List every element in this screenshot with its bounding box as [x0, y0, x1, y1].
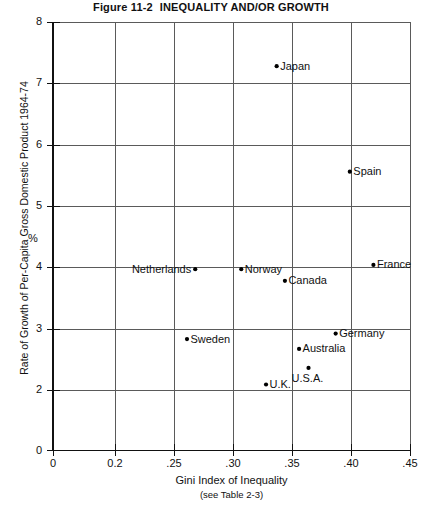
scatter-plot-canvas	[0, 0, 422, 510]
data-point-norway	[239, 267, 243, 271]
x-tick-label: .40	[331, 458, 371, 469]
y-axis-unit: %	[28, 232, 38, 244]
point-label-netherlands: Netherlands	[132, 264, 191, 275]
y-tick-label: 0	[20, 445, 42, 456]
x-axis-subtitle: (see Table 2-3)	[53, 489, 410, 500]
point-label-canada: Canada	[288, 275, 327, 286]
x-tick-label: .25	[154, 458, 194, 469]
data-point-japan	[275, 64, 279, 68]
x-tick-label: 0	[33, 458, 73, 469]
point-label-u-s-a: U.S.A.	[292, 373, 324, 384]
point-label-norway: Norway	[245, 264, 282, 275]
point-label-spain: Spain	[353, 166, 381, 177]
data-point-u-k	[264, 382, 268, 386]
data-point-spain	[348, 170, 352, 174]
x-tick-label: .35	[272, 458, 312, 469]
data-point-germany	[334, 331, 338, 335]
x-tick-label: .45	[390, 458, 422, 469]
x-tick-label: .30	[213, 458, 253, 469]
x-tick-label: 0.2	[95, 458, 135, 469]
data-point-france	[371, 263, 375, 267]
point-label-france: France	[377, 259, 411, 270]
data-point-u-s-a	[306, 366, 310, 370]
point-label-australia: Australia	[303, 343, 346, 354]
point-label-sweden: Sweden	[190, 334, 230, 345]
y-axis-title: Rate of Growth of Per-Capita Gross Domes…	[18, 18, 30, 438]
x-axis-title: Gini Index of Inequality	[53, 474, 410, 486]
vertical-gridlines	[116, 22, 411, 450]
point-label-u-k: U.K.	[270, 379, 291, 390]
data-point-australia	[297, 347, 301, 351]
point-label-japan: Japan	[280, 61, 310, 72]
data-point-netherlands	[193, 267, 197, 271]
figure-container: Figure 11-2INEQUALITY AND/OR GROWTH 0.2.…	[0, 0, 422, 510]
data-point-canada	[283, 279, 287, 283]
data-point-sweden	[185, 337, 189, 341]
point-label-germany: Germany	[339, 328, 384, 339]
